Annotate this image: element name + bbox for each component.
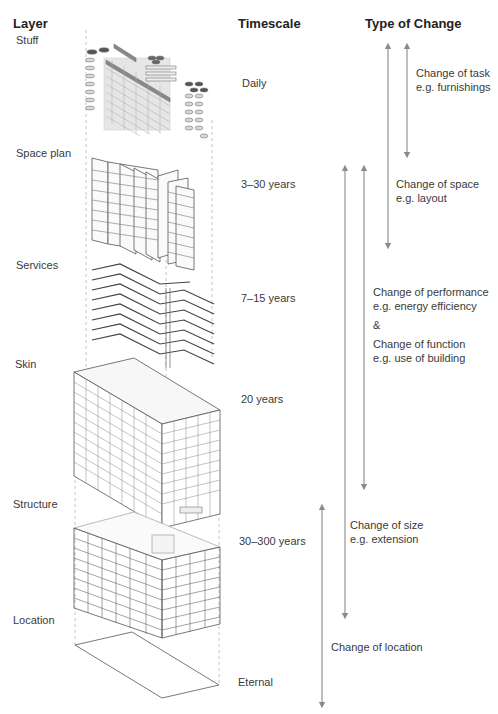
exploded-building-diagram bbox=[0, 0, 498, 714]
structure-layer-drawing bbox=[74, 512, 220, 638]
space-plan-layer-drawing bbox=[92, 158, 194, 270]
skin-layer-drawing bbox=[74, 358, 220, 528]
location-layer-drawing bbox=[75, 632, 219, 698]
stuff-layer-drawing bbox=[86, 44, 209, 138]
services-layer-drawing bbox=[92, 264, 214, 368]
